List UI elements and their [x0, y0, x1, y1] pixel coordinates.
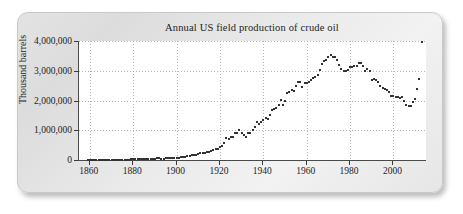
- data-point: [369, 70, 371, 72]
- y-tick-label: 3,000,000: [34, 66, 72, 76]
- data-point: [223, 142, 225, 144]
- data-point: [252, 129, 254, 131]
- data-point: [362, 65, 364, 67]
- data-point: [414, 98, 416, 100]
- data-point: [403, 100, 405, 102]
- data-point: [267, 118, 269, 120]
- data-point: [278, 104, 280, 106]
- data-point: [301, 86, 303, 88]
- data-point: [254, 126, 256, 128]
- data-point: [249, 132, 251, 134]
- y-tick-label: 1,000,000: [34, 125, 72, 135]
- data-point: [275, 107, 277, 109]
- data-point: [238, 129, 240, 131]
- data-point: [377, 81, 379, 83]
- data-point: [401, 96, 403, 98]
- data-point: [317, 74, 319, 76]
- data-point: [236, 132, 238, 134]
- data-point: [217, 148, 219, 150]
- y-tick-label: 4,000,000: [34, 36, 72, 46]
- x-tick-label: 1940: [253, 166, 272, 176]
- x-tick-mark: [392, 161, 393, 165]
- data-point: [416, 88, 418, 90]
- data-point: [245, 136, 247, 138]
- x-tick-mark: [132, 161, 133, 165]
- x-tick-label: 1960: [296, 166, 315, 176]
- x-tick-mark: [262, 161, 263, 165]
- y-axis-label: Thousand barrels: [17, 22, 28, 118]
- data-point: [221, 145, 223, 147]
- y-tick-label: 2,000,000: [34, 96, 72, 106]
- data-point: [356, 65, 358, 67]
- data-series-points: [79, 41, 426, 160]
- data-point: [293, 90, 295, 92]
- data-point: [310, 79, 312, 81]
- data-point: [260, 121, 262, 123]
- data-point: [295, 85, 297, 87]
- data-point: [336, 59, 338, 61]
- x-tick-label: 1880: [123, 166, 142, 176]
- data-point: [360, 62, 362, 64]
- data-point: [314, 76, 316, 78]
- x-tick-mark: [176, 161, 177, 165]
- data-point: [364, 70, 366, 72]
- x-tick-mark: [89, 161, 90, 165]
- x-tick-label: 1980: [340, 166, 359, 176]
- x-tick-label: 1860: [79, 166, 98, 176]
- data-point: [284, 100, 286, 102]
- x-tick-mark: [219, 161, 220, 165]
- data-point: [338, 64, 340, 66]
- x-tick-mark: [306, 161, 307, 165]
- y-tick-label: 0: [67, 155, 72, 165]
- data-point: [299, 81, 301, 83]
- data-point: [347, 69, 349, 71]
- data-point: [321, 63, 323, 65]
- chart-figure: Annual US field production of crude oil …: [0, 0, 463, 214]
- data-point: [421, 41, 423, 43]
- plot-area: [78, 41, 426, 161]
- data-point: [282, 104, 284, 106]
- data-point: [388, 91, 390, 93]
- data-point: [269, 114, 271, 116]
- data-point: [418, 78, 420, 80]
- data-point: [325, 59, 327, 61]
- data-point: [280, 99, 282, 101]
- x-tick-mark: [349, 161, 350, 165]
- data-point: [327, 56, 329, 58]
- data-point: [288, 91, 290, 93]
- data-point: [319, 69, 321, 71]
- data-point: [334, 56, 336, 58]
- data-point: [412, 101, 414, 103]
- x-tick-label: 2000: [383, 166, 402, 176]
- data-point: [232, 136, 234, 138]
- data-point: [410, 105, 412, 107]
- x-tick-label: 1900: [166, 166, 185, 176]
- chart-title: Annual US field production of crude oil: [78, 22, 426, 33]
- x-tick-label: 1920: [209, 166, 228, 176]
